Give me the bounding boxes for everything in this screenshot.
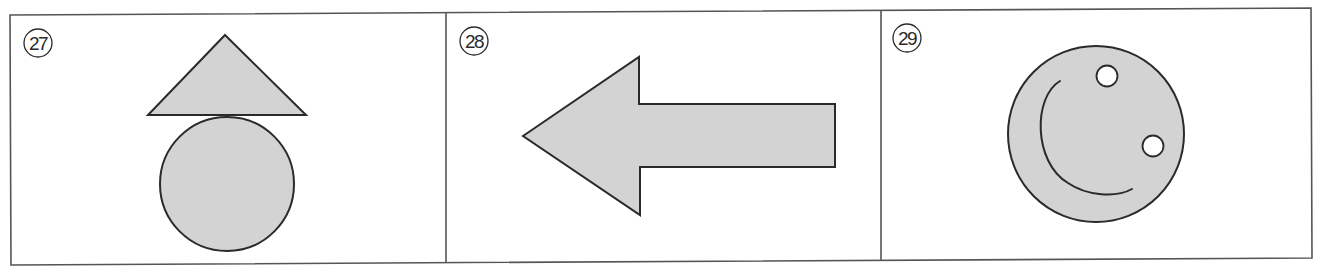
circle-shape <box>160 117 294 251</box>
face-circle-shape <box>1008 46 1184 222</box>
panel-number: 29 <box>898 28 917 49</box>
dot-shape-upper <box>1097 66 1118 87</box>
figure-strip: 27 28 29 <box>0 0 1320 278</box>
panel-number: 28 <box>465 31 484 52</box>
dot-shape-right <box>1143 136 1164 157</box>
panel-number: 27 <box>29 33 48 54</box>
